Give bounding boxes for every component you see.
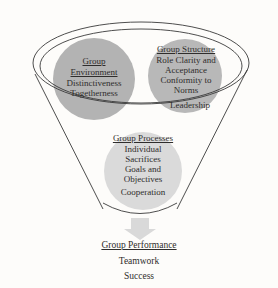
group-environment-title-line2: Environment bbox=[44, 67, 144, 77]
group-structure-label: Group Structure Role Clarity and Accepta… bbox=[142, 44, 230, 95]
group-performance-label: Group Performance Teamwork Success bbox=[64, 240, 214, 282]
group-structure-item-1: Acceptance bbox=[142, 65, 230, 75]
group-performance-item-0: Teamwork bbox=[64, 256, 214, 267]
group-processes-label: Group Processes Individual Sacrifices Go… bbox=[96, 133, 190, 197]
group-processes-title: Group Processes bbox=[96, 133, 190, 143]
group-structure-item-3: Norms bbox=[142, 85, 230, 95]
group-environment-item-1: Togetherness bbox=[44, 88, 144, 98]
group-performance-funnel-diagram: Group Environment Distinctiveness Togeth… bbox=[0, 0, 278, 288]
group-performance-item-1: Success bbox=[64, 271, 214, 282]
group-processes-item-3: Objectives bbox=[96, 174, 190, 184]
down-arrow-icon bbox=[124, 218, 156, 240]
leadership-label: Leadership bbox=[150, 100, 230, 110]
group-processes-item-0: Individual bbox=[96, 144, 190, 154]
group-structure-item-0: Role Clarity and bbox=[142, 55, 230, 65]
group-structure-title: Group Structure bbox=[142, 44, 230, 54]
group-structure-item-2: Conformity to bbox=[142, 75, 230, 85]
leadership-text: Leadership bbox=[150, 100, 230, 110]
group-environment-item-0: Distinctiveness bbox=[44, 78, 144, 88]
group-performance-title: Group Performance bbox=[64, 240, 214, 251]
group-processes-item-1: Sacrifices bbox=[96, 154, 190, 164]
group-processes-item-2: Goals and bbox=[96, 164, 190, 174]
group-environment-title-line1: Group bbox=[44, 56, 144, 66]
group-processes-item-4: Cooperation bbox=[96, 187, 190, 197]
group-environment-label: Group Environment Distinctiveness Togeth… bbox=[44, 56, 144, 98]
